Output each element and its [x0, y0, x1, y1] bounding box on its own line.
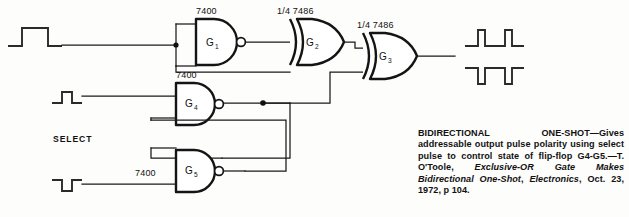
waveform-select-set [52, 92, 82, 103]
gate-label-g3: G [379, 51, 387, 62]
select-label: SELECT [53, 134, 92, 144]
gate-g1: G 1 7400 [196, 6, 245, 65]
junction-dot-g4-output [260, 100, 266, 106]
waveform-select-reset [52, 180, 176, 191]
caption-publication: Electronics [529, 174, 579, 184]
part-label-g4: 7400 [176, 70, 197, 80]
part-label-g5: 7400 [135, 168, 156, 178]
g5-output-bubble [215, 167, 224, 176]
waveform-output-negative [465, 68, 524, 84]
gate-g4: G 4 7400 [176, 70, 223, 125]
gate-sublabel-g3: 3 [388, 57, 392, 64]
waveform-input-trigger [8, 28, 62, 46]
figure-root: G 1 7400 G 2 1/4 7486 [0, 0, 629, 217]
wire-cross-g4-to-g5 [151, 103, 290, 158]
gate-sublabel-g5: 5 [194, 171, 198, 178]
g4-output-bubble [215, 100, 224, 109]
junction-dot-g1-input [173, 42, 178, 47]
gate-sublabel-g2: 2 [315, 43, 319, 50]
g1-output-bubble [237, 38, 246, 47]
gate-g2: G 2 1/4 7486 [277, 6, 344, 65]
waveform-output-positive [465, 30, 524, 46]
part-label-g3: 1/4 7486 [357, 20, 394, 30]
gate-label-g1: G [206, 37, 214, 48]
gate-label-g4: G [185, 98, 193, 109]
wire-cross-g5-to-g4 [151, 118, 286, 171]
gate-label-g5: G [185, 165, 193, 176]
wire-input-to-g1 [62, 24, 196, 66]
wire-g2-to-g3 [344, 42, 363, 48]
gate-sublabel-g4: 4 [194, 104, 198, 111]
wire-g4-output [224, 100, 290, 106]
gate-sublabel-g1: 1 [215, 43, 219, 50]
part-label-g1: 7400 [196, 6, 217, 16]
part-label-g2: 1/4 7486 [277, 6, 314, 16]
gate-label-g2: G [306, 37, 314, 48]
gate-g5: G 5 7400 [135, 150, 223, 192]
figure-caption: BIDIRECTIONAL ONE-SHOT—Gives addressable… [418, 128, 624, 196]
wire-g4-feedback-to-g3 [263, 72, 363, 103]
gate-g3: G 3 1/4 7486 [357, 20, 417, 79]
